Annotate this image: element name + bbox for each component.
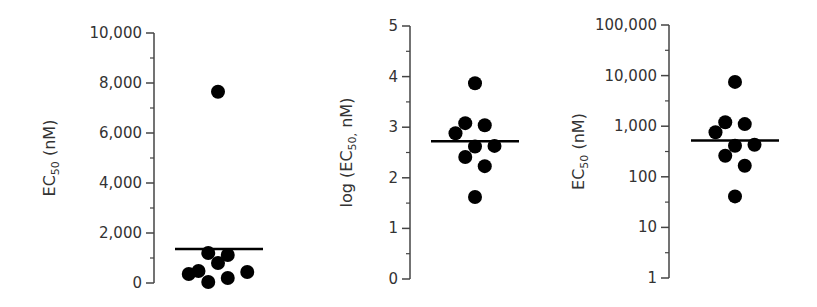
data-point [748, 138, 762, 152]
y-tick-label: 10 [638, 218, 657, 236]
data-point [211, 85, 225, 99]
data-point [458, 116, 472, 130]
data-point [240, 265, 254, 279]
y-axis-label: EC50 (nM) [569, 113, 591, 190]
y-tick-label: 10,000 [605, 67, 658, 85]
data-point [478, 118, 492, 132]
data-point [738, 159, 752, 173]
data-point [468, 76, 482, 90]
y-tick-label: 4,000 [99, 174, 142, 192]
y-tick-label: 10,000 [90, 24, 143, 42]
data-point [488, 139, 502, 153]
data-point [449, 126, 463, 140]
y-tick-label: 1 [388, 219, 398, 237]
y-tick-label: 5 [388, 17, 398, 35]
y-axis-label: log (EC50, nM) [337, 98, 359, 208]
y-tick-label: 4 [388, 68, 398, 86]
data-point [478, 159, 492, 173]
y-tick-label: 3 [388, 118, 398, 136]
y-tick-label: 6,000 [99, 124, 142, 142]
data-point [728, 139, 742, 153]
data-point [468, 190, 482, 204]
chart-panel-3: 1101001,00010,000100,000EC50 (nM) [569, 16, 779, 287]
data-point [458, 150, 472, 164]
data-point [192, 264, 206, 278]
y-tick-label: 0 [388, 270, 398, 288]
y-axis-label: EC50 (nM) [40, 120, 62, 197]
chart-panel-1: 02,0004,0006,0008,00010,000EC50 (nM) [40, 24, 263, 292]
y-tick-label: 1 [647, 269, 657, 287]
data-point [709, 125, 723, 139]
y-tick-label: 2,000 [99, 224, 142, 242]
data-point [468, 139, 482, 153]
data-point [221, 271, 235, 285]
ec50-dot-plots: 02,0004,0006,0008,00010,000EC50 (nM)0123… [0, 0, 817, 307]
y-tick-label: 100,000 [595, 16, 657, 34]
data-point [738, 117, 752, 131]
y-tick-label: 100 [628, 168, 657, 186]
y-tick-label: 1,000 [614, 117, 657, 135]
data-point [718, 149, 732, 163]
data-point [211, 256, 225, 270]
data-point [718, 115, 732, 129]
data-point [201, 246, 215, 260]
chart-panel-2: 012345log (EC50, nM) [337, 17, 519, 288]
y-tick-label: 0 [132, 274, 142, 292]
data-point [728, 75, 742, 89]
y-tick-label: 8,000 [99, 74, 142, 92]
y-tick-label: 2 [388, 169, 398, 187]
data-point [728, 189, 742, 203]
data-point [201, 275, 215, 289]
